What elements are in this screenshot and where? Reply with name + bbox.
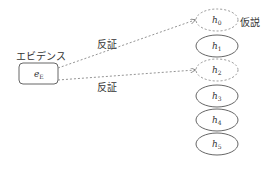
edge-label-refute-h0: 反証 — [97, 36, 117, 51]
hypothesis-h0: h0 — [196, 9, 238, 31]
hypothesis-h5: h5 — [196, 133, 238, 155]
hypothesis-h4: h4 — [196, 109, 238, 131]
edge-refute-h0 — [58, 20, 195, 68]
hypothesis-label: 仮説 — [240, 14, 260, 29]
hypothesis-h3: h3 — [196, 85, 238, 107]
edge-refute-h2 — [58, 70, 195, 80]
diagram-canvas: eE h0 h1 h2 h3 h4 h5 — [0, 0, 277, 170]
edge-label-refute-h2: 反証 — [97, 79, 117, 94]
hypothesis-h1: h1 — [196, 35, 238, 57]
evidence-title: エビデンス — [16, 48, 66, 63]
hypothesis-h2: h2 — [196, 59, 238, 81]
